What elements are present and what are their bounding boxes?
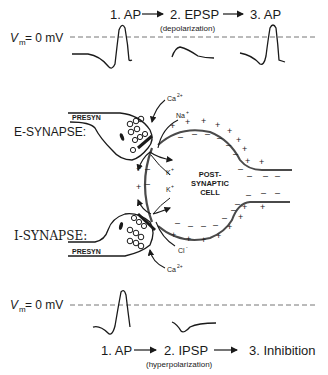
mitochondrion — [119, 133, 125, 142]
svg-text:V: V — [10, 31, 19, 45]
svg-text:–: – — [226, 140, 231, 150]
svg-text:–: – — [175, 218, 180, 228]
bottom-step-1: 1. AP — [101, 343, 132, 358]
svg-text:–: – — [275, 171, 280, 181]
svg-text:+: + — [186, 234, 191, 244]
svg-text:+: + — [170, 121, 175, 131]
svg-text:–: – — [145, 164, 150, 174]
ion-cl: Cl - — [178, 244, 188, 254]
svg-text:Ca: Ca — [167, 266, 176, 273]
svg-text:-: - — [186, 244, 188, 250]
svg-text:V: V — [10, 298, 19, 312]
svg-text:Na: Na — [176, 112, 185, 119]
top-step-2: 2. EPSP — [170, 7, 219, 22]
svg-text:= 0 mV: = 0 mV — [25, 298, 63, 312]
ion-k-1: K + — [166, 166, 174, 176]
svg-text:+: + — [185, 117, 190, 127]
svg-text:+: + — [136, 182, 141, 192]
svg-text:+: + — [238, 212, 243, 222]
synapse-figure: 1. AP 2. EPSP 3. AP (depolarization) V m… — [0, 0, 328, 375]
ion-ca-bottom: Ca 2+ — [167, 263, 183, 273]
svg-text:+: + — [259, 157, 264, 167]
bottom-sequence: 1. AP 2. IPSP 3. Inhibition (hyperpolari… — [101, 343, 316, 369]
top-step-3: 3. AP — [250, 7, 281, 22]
top-step-1: 1. AP — [110, 7, 141, 22]
svg-text:–: – — [263, 171, 268, 181]
svg-text:–: – — [205, 129, 210, 139]
e-synapse-label: E-SYNAPSE: — [14, 125, 86, 139]
svg-text:Ca: Ca — [167, 95, 176, 102]
ion-ca-top: Ca 2+ — [167, 92, 183, 102]
svg-text:–: – — [247, 171, 252, 181]
top-sequence: 1. AP 2. EPSP 3. AP (depolarization) — [110, 7, 281, 33]
svg-text:+: + — [236, 135, 241, 145]
postsynaptic-cell-label: POST- SYNAPTIC CELL — [191, 170, 230, 197]
svg-text:+: + — [227, 222, 232, 232]
svg-text:2+: 2+ — [177, 92, 183, 98]
svg-text:+: + — [171, 166, 174, 172]
svg-text:+: + — [245, 156, 250, 166]
action-potential-trace — [93, 291, 130, 335]
svg-text:+: + — [171, 230, 176, 240]
ca-influx-arrow-top — [152, 100, 165, 122]
presyn-top-label: PRESYN — [72, 114, 101, 121]
svg-text:+: + — [171, 183, 174, 189]
svg-text:CELL: CELL — [200, 188, 220, 197]
epsp-trace — [172, 47, 214, 58]
svg-text:–: – — [188, 221, 193, 231]
bottom-step-3: 3. Inhibition — [249, 343, 316, 358]
action-potential-trace — [72, 25, 132, 68]
svg-text:Cl: Cl — [178, 247, 185, 254]
svg-text:–: – — [213, 220, 218, 230]
bottom-step-2-note: (hyperpolarization) — [146, 360, 213, 369]
svg-text:POST-: POST- — [199, 170, 222, 179]
svg-text:+: + — [260, 202, 265, 212]
top-vm-label: V m = 0 mV — [10, 31, 63, 47]
svg-text:+: + — [136, 164, 141, 174]
top-step-2-note: (depolarization) — [160, 24, 215, 33]
presyn-bottom-label: PRESYN — [72, 248, 101, 255]
ipsp-trace — [172, 322, 216, 332]
svg-text:= 0 mV: = 0 mV — [25, 31, 63, 45]
svg-text:+: + — [201, 116, 206, 126]
i-synapse-label: I-SYNAPSE: — [14, 229, 87, 243]
svg-text:+: + — [216, 231, 221, 241]
svg-text:+: + — [242, 202, 247, 212]
svg-text:+: + — [201, 235, 206, 245]
svg-text:SYNAPTIC: SYNAPTIC — [191, 179, 230, 188]
svg-text:–: – — [233, 149, 238, 159]
svg-text:+: + — [227, 126, 232, 136]
svg-text:–: – — [246, 190, 251, 200]
svg-text:+: + — [186, 109, 189, 115]
svg-text:–: – — [238, 164, 243, 174]
ca-influx-arrow-bottom — [150, 250, 165, 268]
ion-k-2: K + — [166, 183, 174, 193]
svg-text:–: – — [178, 132, 183, 142]
svg-text:–: – — [261, 188, 266, 198]
svg-text:+: + — [215, 120, 220, 130]
svg-text:–: – — [275, 188, 280, 198]
svg-text:–: – — [192, 129, 197, 139]
svg-text:2+: 2+ — [177, 263, 183, 269]
bottom-vm-label: V m = 0 mV — [10, 298, 63, 314]
action-potential-trace — [240, 25, 285, 64]
svg-text:+: + — [242, 144, 247, 154]
svg-text:–: – — [145, 179, 150, 189]
bottom-step-2: 2. IPSP — [164, 343, 208, 358]
svg-text:–: – — [201, 221, 206, 231]
svg-text:–: – — [231, 205, 236, 215]
mitochondrion — [118, 222, 124, 231]
svg-text:–: – — [217, 133, 222, 143]
